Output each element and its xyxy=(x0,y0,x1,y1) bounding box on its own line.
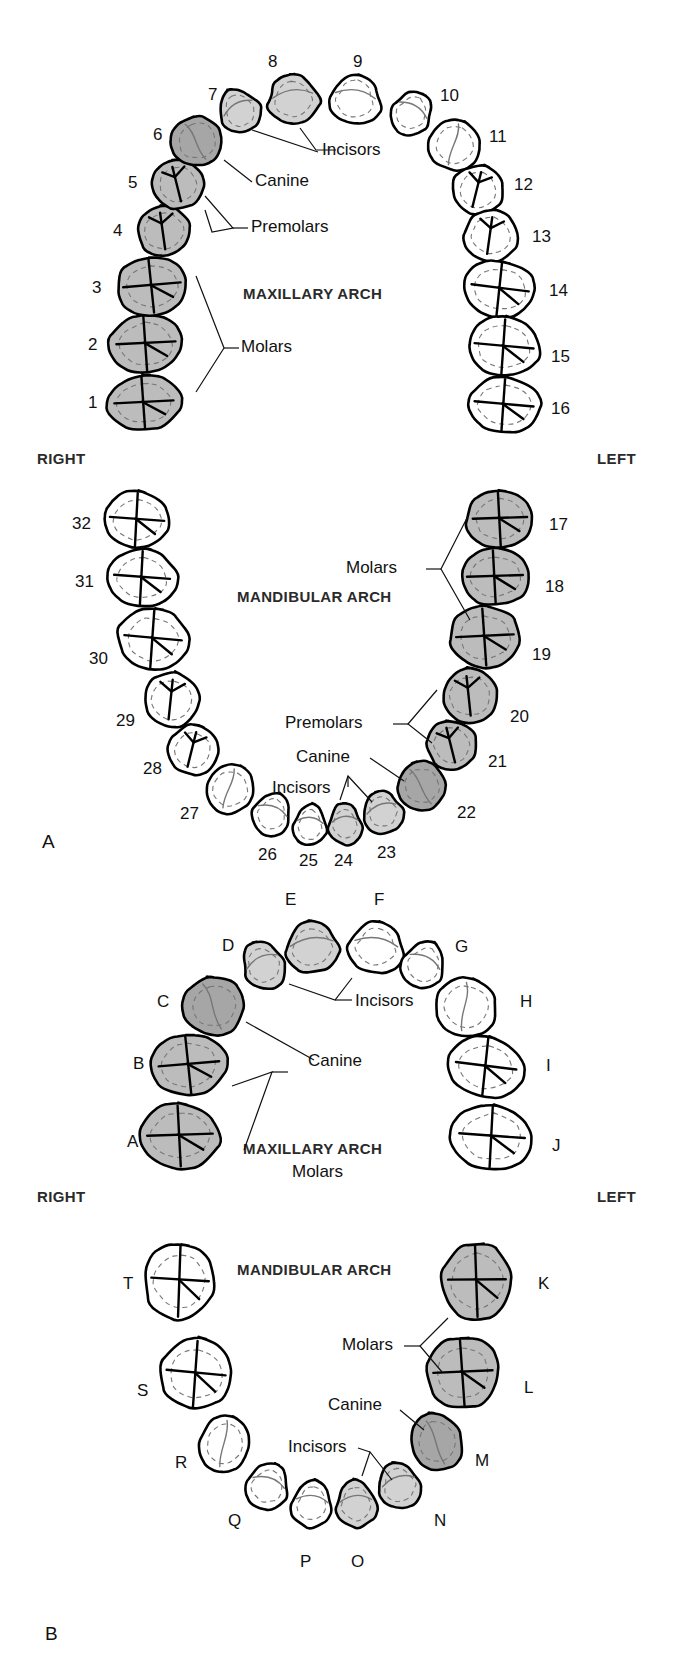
leader-b-man-canine xyxy=(400,1410,424,1430)
dental-arch-figure: A MAXILLARY ARCH RIGHT LEFT MANDIBULAR A… xyxy=(0,0,682,1668)
leader-a-man-canine xyxy=(370,758,404,781)
leader-a-max-canine xyxy=(224,160,252,182)
leader-b-man-molars-brace xyxy=(420,1318,448,1372)
leader-a-man-premolars-brace xyxy=(408,690,437,743)
leader-b-max-molars-brace xyxy=(232,1072,272,1150)
leader-b-man-incisors-brace xyxy=(362,1452,392,1480)
leader-b-man-incisors-stem xyxy=(358,1448,370,1452)
leader-b-max-canine xyxy=(246,1022,314,1060)
leader-a-man-molars-brace xyxy=(441,516,470,620)
leader-a-max-molars-brace xyxy=(196,276,224,392)
leader-a-max-premolars-brace xyxy=(205,196,233,232)
leader-a-max-incisors-2 xyxy=(252,130,318,152)
leader-b-max-incisors-brace xyxy=(289,978,352,1000)
leader-a-max-incisors xyxy=(300,128,336,150)
callout-leader-lines xyxy=(0,0,682,1668)
leader-a-man-incisors-brace xyxy=(340,776,372,802)
